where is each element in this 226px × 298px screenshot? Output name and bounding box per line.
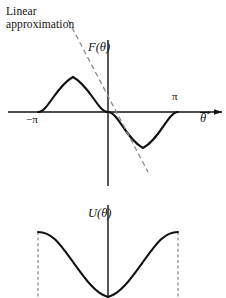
force-x-axis-arrowhead	[214, 109, 222, 114]
force-y-axis-label: F(θ)	[88, 40, 110, 55]
physics-force-potential-figure	[0, 0, 226, 298]
force-x-axis-label: θ	[200, 111, 206, 126]
force-x-tick-pos-pi: π	[172, 90, 178, 102]
potential-y-axis-label: U(θ)	[88, 206, 112, 221]
force-panel	[8, 20, 222, 186]
linear-approximation-label: Linear approximation	[6, 5, 92, 31]
force-x-tick-neg-pi: −π	[26, 113, 38, 125]
vector-arrow-icon	[200, 110, 211, 115]
